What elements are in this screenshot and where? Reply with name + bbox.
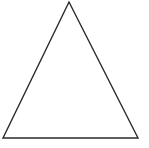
triangle-outline: [3, 2, 138, 138]
diagram-canvas: [0, 0, 149, 148]
triangle-figure: [0, 0, 149, 148]
